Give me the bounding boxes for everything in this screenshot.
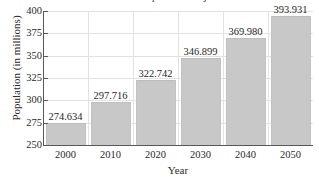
y-tick-mark — [44, 145, 48, 146]
bar[interactable] — [271, 16, 311, 145]
x-tick-label: 2020 — [133, 149, 178, 160]
chart-title: U.S. Population Projections — [43, 0, 313, 2]
bar-value-label: 322.742 — [128, 68, 184, 79]
y-tick-mark — [44, 100, 48, 101]
bar[interactable] — [46, 123, 86, 145]
x-tick-label: 2010 — [88, 149, 133, 160]
bar-group[interactable]: 322.742 — [136, 11, 176, 145]
bar-group[interactable]: 297.716 — [91, 11, 131, 145]
x-gridline — [88, 11, 89, 145]
y-tick-label: 300 — [8, 95, 42, 105]
y-tick-mark — [44, 11, 48, 12]
x-tick-label: 2050 — [268, 149, 313, 160]
bar-value-label: 369.980 — [218, 26, 274, 37]
x-tick-label: 2030 — [178, 149, 223, 160]
x-tick-label: 2000 — [43, 149, 88, 160]
y-tick-label: 250 — [8, 140, 42, 150]
y-tick-label: 275 — [8, 118, 42, 128]
bar[interactable] — [136, 80, 176, 145]
plot-area: 274.634297.716322.742346.899369.980393.9… — [43, 11, 313, 145]
bar[interactable] — [91, 102, 131, 145]
y-tick-mark — [44, 33, 48, 34]
bar-group[interactable]: 393.931 — [271, 11, 311, 145]
x-axis-title: Year — [43, 164, 313, 176]
y-tick-label: 350 — [8, 51, 42, 61]
bar-value-label: 297.716 — [83, 90, 139, 101]
bar-group[interactable]: 369.980 — [226, 11, 266, 145]
bar[interactable] — [181, 58, 221, 145]
y-tick-mark — [44, 123, 48, 124]
bar-group[interactable]: 274.634 — [46, 11, 86, 145]
x-axis-line — [43, 145, 313, 146]
bar-group[interactable]: 346.899 — [181, 11, 221, 145]
bar-value-label: 274.634 — [38, 111, 94, 122]
y-tick-label: 400 — [8, 6, 42, 16]
x-tick-label: 2040 — [223, 149, 268, 160]
bar-chart-figure: U.S. Population Projections Population (… — [0, 0, 318, 181]
y-tick-label: 325 — [8, 73, 42, 83]
y-tick-label: 375 — [8, 28, 42, 38]
bar-value-label: 346.899 — [173, 46, 229, 57]
y-tick-mark — [44, 56, 48, 57]
bar-value-label: 393.931 — [263, 4, 319, 15]
y-tick-mark — [44, 78, 48, 79]
bar[interactable] — [226, 38, 266, 145]
